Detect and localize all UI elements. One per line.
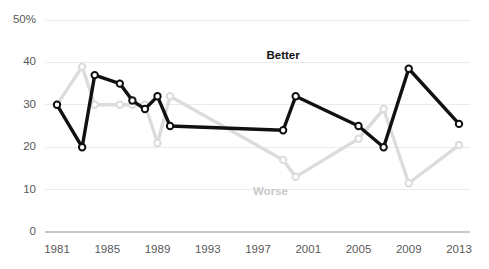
data-point-marker (142, 106, 148, 112)
data-point-marker (167, 123, 173, 129)
data-point-marker (154, 140, 160, 146)
x-tick-label: 1993 (195, 243, 221, 255)
x-tick-label: 1981 (44, 243, 70, 255)
data-point-marker (280, 127, 286, 133)
x-tick-label: 1989 (145, 243, 171, 255)
y-tick-label: 0 (30, 225, 36, 237)
data-point-marker (154, 93, 160, 99)
series-better-group (54, 66, 462, 151)
data-point-marker (91, 102, 97, 108)
data-point-marker (117, 102, 123, 108)
data-point-marker (456, 142, 462, 148)
data-point-marker (91, 72, 97, 78)
data-point-marker (79, 63, 85, 69)
data-point-marker (355, 136, 361, 142)
data-point-marker (380, 106, 386, 112)
data-point-marker (167, 93, 173, 99)
x-tick-label: 1985 (94, 243, 120, 255)
gridlines-group (45, 20, 470, 232)
y-tick-label: 50% (13, 13, 36, 25)
series-label-worse: Worse (253, 185, 288, 197)
data-point-marker (54, 102, 60, 108)
x-tick-label: 1997 (245, 243, 271, 255)
y-tick-label: 10 (23, 183, 36, 195)
data-point-marker (280, 157, 286, 163)
data-point-marker (380, 144, 386, 150)
data-point-marker (406, 66, 412, 72)
y-tick-label: 40 (23, 55, 36, 67)
y-tick-label: 30 (23, 98, 36, 110)
chart-canvas: 01020304050% 198119851989199319972001200… (0, 0, 489, 269)
data-point-marker (406, 180, 412, 186)
y-tick-label: 20 (23, 140, 36, 152)
y-axis-labels-group: 01020304050% (13, 13, 36, 237)
data-point-marker (117, 80, 123, 86)
line-chart: 01020304050% 198119851989199319972001200… (0, 0, 489, 269)
series-label-better: Better (267, 49, 301, 61)
x-tick-label: 2005 (346, 243, 372, 255)
data-point-marker (292, 174, 298, 180)
data-point-marker (79, 144, 85, 150)
x-tick-label: 2009 (396, 243, 422, 255)
data-point-marker (355, 123, 361, 129)
x-tick-label: 2001 (295, 243, 321, 255)
x-tick-label: 2013 (446, 243, 472, 255)
data-point-marker (129, 97, 135, 103)
x-axis-labels-group: 198119851989199319972001200520092013 (44, 243, 472, 255)
data-point-marker (456, 121, 462, 127)
data-point-marker (292, 93, 298, 99)
